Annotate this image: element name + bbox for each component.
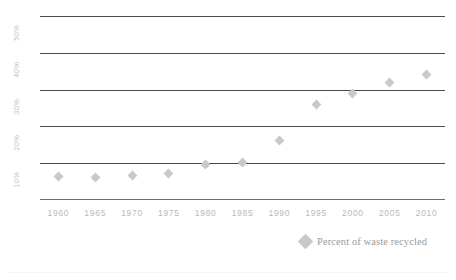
x-axis-tick-1980: 1980 bbox=[184, 208, 228, 218]
x-axis-tick-2005: 2005 bbox=[368, 208, 412, 218]
chart-legend: Percent of waste recycled bbox=[300, 236, 427, 247]
gridline-40pct bbox=[40, 53, 445, 54]
legend-entry-label: Percent of waste recycled bbox=[317, 236, 427, 247]
data-point bbox=[422, 70, 432, 80]
y-axis-tick-50pct: 50% bbox=[0, 29, 34, 37]
footer-divider bbox=[8, 272, 448, 273]
x-axis-tick-1990: 1990 bbox=[257, 208, 301, 218]
x-axis-tick-1970: 1970 bbox=[110, 208, 154, 218]
x-axis-tick-1960: 1960 bbox=[36, 208, 80, 218]
data-point bbox=[238, 158, 248, 168]
x-axis-tick-1995: 1995 bbox=[294, 208, 338, 218]
data-point bbox=[311, 99, 321, 109]
x-axis-tick-2000: 2000 bbox=[331, 208, 375, 218]
gridline-30pct bbox=[40, 90, 445, 91]
y-axis-tick-20pct: 20% bbox=[0, 139, 34, 147]
chart-container: 50%40%30%20%10% 196019651970197519801985… bbox=[0, 0, 456, 280]
x-axis-tick-1975: 1975 bbox=[147, 208, 191, 218]
y-axis-tick-40pct: 40% bbox=[0, 66, 34, 74]
data-point bbox=[164, 169, 174, 179]
diamond-marker-icon bbox=[298, 234, 314, 250]
y-axis-tick-30pct: 30% bbox=[0, 103, 34, 111]
data-point bbox=[385, 77, 395, 87]
x-axis-tick-1965: 1965 bbox=[73, 208, 117, 218]
x-axis-tick-1985: 1985 bbox=[221, 208, 265, 218]
data-point bbox=[53, 171, 63, 181]
gridline-20pct bbox=[40, 126, 445, 127]
plot-area bbox=[40, 16, 445, 200]
y-axis-tick-10pct: 10% bbox=[0, 176, 34, 184]
data-point bbox=[127, 171, 137, 181]
x-axis-tick-2010: 2010 bbox=[405, 208, 449, 218]
gridline-50pct bbox=[40, 16, 445, 17]
data-point bbox=[201, 160, 211, 170]
data-point bbox=[274, 135, 284, 145]
data-point bbox=[90, 172, 100, 182]
x-axis-line bbox=[40, 199, 445, 200]
